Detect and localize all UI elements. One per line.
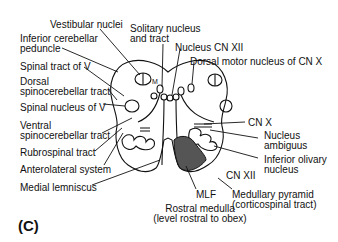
- label-ventral-spinocerebellar-2: spinocerebellar tract: [20, 131, 110, 141]
- label-inferior-cerebellar-peduncle-2: peduncle: [20, 44, 61, 54]
- label-rubrospinal: Rubrospinal tract: [20, 148, 96, 158]
- label-nucleus-ambiguus-2: ambiguus: [264, 141, 307, 151]
- panel-label: (C): [18, 217, 39, 234]
- medulla-outline: [111, 60, 228, 171]
- medullary-pyramid-shape: [174, 136, 206, 170]
- label-spinal-nucleus-v: Spinal nucleus of V: [20, 103, 106, 113]
- label-dorsal-motor-x: Dorsal motor nucleus of CN X: [190, 57, 322, 67]
- label-nucleus-cn-xii: Nucleus CN XII: [175, 43, 243, 53]
- label-inferior-olivary-2: nucleus: [264, 165, 298, 175]
- vestibular-m-mark: M: [152, 77, 158, 87]
- label-mlf: MLF: [196, 190, 216, 200]
- label-cn-x: CN X: [248, 118, 272, 128]
- label-anterolateral: Anterolateral system: [20, 165, 111, 175]
- label-spinal-tract-v: Spinal tract of V: [20, 62, 91, 72]
- caption-line2: (level rostral to obex): [140, 214, 260, 224]
- label-medial-lemniscus: Medial lemniscus: [20, 183, 97, 193]
- label-cn-xii: CN XII: [226, 171, 255, 181]
- label-vestibular-nuclei: Vestibular nuclei: [50, 20, 123, 30]
- label-dorsal-spinocerebellar-2: spinocerebellar tract: [20, 87, 110, 97]
- label-solitary-2: and tract: [130, 34, 169, 44]
